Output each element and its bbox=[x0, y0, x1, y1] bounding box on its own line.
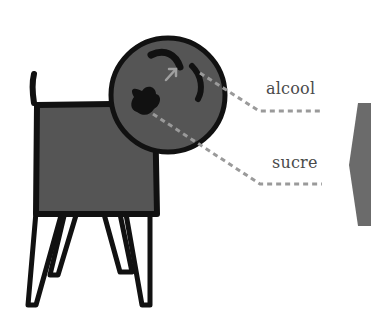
illustration: alcool sucre bbox=[0, 0, 371, 329]
hexagon-shape bbox=[349, 103, 371, 226]
label-sugar: sucre bbox=[272, 153, 318, 172]
label-alcohol: alcool bbox=[266, 79, 315, 98]
tail bbox=[33, 74, 35, 103]
legs bbox=[28, 212, 150, 305]
